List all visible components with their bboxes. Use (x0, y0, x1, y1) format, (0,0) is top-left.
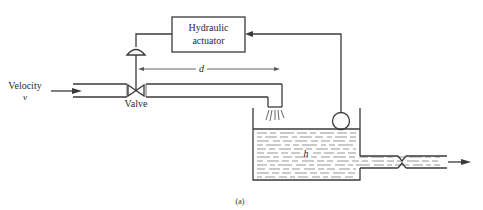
tank: h (253, 108, 440, 180)
water-spray-icon (266, 110, 284, 121)
figure-caption: (a) (236, 197, 245, 206)
float-sensor (333, 113, 350, 130)
diaphragm-icon (127, 50, 145, 56)
arrow-left-icon (245, 31, 253, 37)
valve-linkage (127, 34, 172, 90)
actuator-label-line1: Hydraulic (189, 22, 230, 33)
valve-label: Valve (125, 98, 148, 109)
outlet-restriction (398, 156, 406, 168)
velocity-symbol: v (23, 92, 27, 102)
level-label: h (304, 148, 309, 159)
distance-label: d (199, 63, 205, 74)
arrow-right-icon (461, 159, 471, 165)
arrow-right-icon (72, 88, 82, 94)
distance-dimension: d (138, 63, 280, 74)
arrow-left-icon (138, 67, 144, 71)
tank-level-control-diagram: Hydraulic actuator d (0, 0, 483, 210)
actuator-label-line2: actuator (192, 35, 225, 46)
water-fill (257, 133, 440, 177)
feedback-line (245, 31, 341, 112)
velocity-label: Velocity (8, 80, 41, 91)
hydraulic-actuator: Hydraulic actuator (172, 17, 245, 52)
outlet-pipe (360, 156, 471, 168)
inlet-velocity: Velocity v (8, 80, 82, 102)
arrow-right-icon (274, 67, 280, 71)
